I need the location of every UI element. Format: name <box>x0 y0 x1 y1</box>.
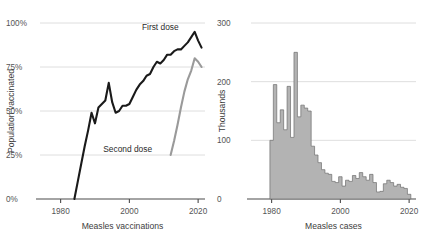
page-edge-artifact <box>0 243 422 250</box>
xtick-label-1980: 1980 <box>52 207 71 216</box>
series-line-second-dose <box>171 58 202 155</box>
measles-figure: 0%25%50%75%100%198020002020Measles vacci… <box>0 0 422 250</box>
xtick-label-2000: 2000 <box>120 207 139 216</box>
xtick-label-2020: 2020 <box>400 207 419 216</box>
annotation-first-dose: First dose <box>142 22 179 32</box>
ytick-label-200: 200 <box>217 78 231 87</box>
x-axis-title: Measles vaccinations <box>82 221 164 231</box>
chart-measles-cases: 0100200300198020002020Measles casesThous… <box>211 0 422 250</box>
panel-measles-vaccinations: 0%25%50%75%100%198020002020Measles vacci… <box>0 0 211 250</box>
ytick-label-0: 0 <box>217 195 222 204</box>
xtick-label-2000: 2000 <box>331 207 350 216</box>
ytick-label-100: 100 <box>217 136 231 145</box>
bars-measles-cases <box>270 52 411 199</box>
xtick-label-2020: 2020 <box>189 207 208 216</box>
ytick-label-100: 100% <box>6 19 27 28</box>
panel-measles-cases: 0100200300198020002020Measles casesThous… <box>211 0 422 250</box>
xtick-label-1980: 1980 <box>263 207 282 216</box>
ytick-label-0: 0% <box>6 195 18 204</box>
y-axis-title: Population vaccinated <box>6 69 16 153</box>
x-axis-title: Measles cases <box>305 221 362 231</box>
ytick-label-300: 300 <box>217 19 231 28</box>
series-line-first-dose <box>74 32 201 199</box>
chart-measles-vaccinations: 0%25%50%75%100%198020002020Measles vacci… <box>0 0 211 250</box>
annotation-second-dose: Second dose <box>103 144 152 154</box>
y-axis-title: Thousands <box>217 90 227 133</box>
